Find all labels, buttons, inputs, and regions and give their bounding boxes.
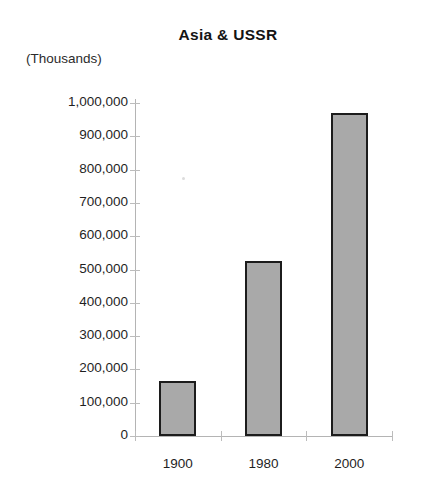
y-axis-tick-label: 200,000 — [8, 360, 128, 375]
y-axis-line — [135, 99, 136, 437]
y-axis-tick-label: 100,000 — [8, 394, 128, 409]
x-axis-tick-label: 2000 — [309, 456, 389, 471]
x-axis-tick-label: 1900 — [138, 456, 218, 471]
chart-title: Asia & USSR — [128, 26, 328, 44]
y-axis-tick-mark — [130, 303, 140, 304]
y-axis-tick-mark — [130, 236, 140, 237]
y-axis-tick-mark — [130, 136, 140, 137]
y-axis-tick-labels: 1,000,000900,000800,000700,000600,000500… — [6, 0, 128, 495]
y-axis-tick-label: 500,000 — [8, 261, 128, 276]
y-axis-tick-mark — [130, 103, 140, 104]
y-axis-tick-mark — [130, 203, 140, 204]
y-axis-tick-mark — [130, 336, 140, 337]
scan-artifact-speck — [182, 177, 185, 180]
bar-1900 — [159, 381, 196, 436]
y-axis-tick-mark — [130, 403, 140, 404]
y-axis-tick-label: 0 — [8, 427, 128, 442]
x-axis-tick-mark — [221, 431, 222, 441]
y-axis-tick-label: 900,000 — [8, 127, 128, 142]
y-axis-tick-label: 300,000 — [8, 327, 128, 342]
y-axis-tick-label: 700,000 — [8, 194, 128, 209]
x-axis-tick-mark — [135, 431, 136, 441]
y-axis-tick-label: 400,000 — [8, 294, 128, 309]
y-axis-tick-mark — [130, 270, 140, 271]
bar-2000 — [331, 113, 368, 436]
bar-chart-figure: Asia & USSR (Thousands) 1,000,000900,000… — [0, 0, 424, 495]
x-axis-tick-mark — [306, 431, 307, 441]
y-axis-tick-mark — [130, 369, 140, 370]
x-axis-line — [131, 436, 393, 437]
x-axis-tick-mark — [392, 431, 393, 441]
y-axis-tick-label: 800,000 — [8, 161, 128, 176]
y-axis-tick-label: 1,000,000 — [8, 94, 128, 109]
y-axis-tick-mark — [130, 170, 140, 171]
x-axis-tick-label: 1980 — [224, 456, 304, 471]
bar-1980 — [245, 261, 282, 436]
y-axis-tick-label: 600,000 — [8, 227, 128, 242]
